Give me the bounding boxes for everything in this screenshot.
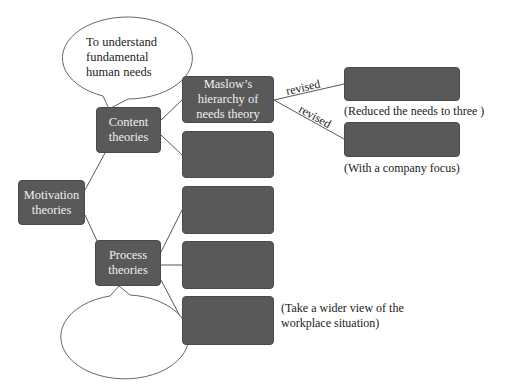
process-blank-node-2 <box>182 241 274 289</box>
revision-note-2: (With a company focus) <box>344 161 460 176</box>
process-blank-node-1 <box>182 186 274 234</box>
motivation-theories-node: Motivation theories <box>18 180 85 225</box>
content-theories-node: Content theories <box>96 107 161 153</box>
node-label: Maslow’s hierarchy of needs theory <box>183 77 273 122</box>
node-label: Motivation theories <box>19 188 84 218</box>
maslow-node: Maslow’s hierarchy of needs theory <box>182 76 274 123</box>
revision-blank-node-1 <box>344 67 460 101</box>
revision-note-1: (Reduced the needs to three ) <box>344 104 484 119</box>
node-label: Process theories <box>96 248 160 278</box>
top-bubble-text: To understand fundamental human needs <box>86 35 176 80</box>
process-blank-node-3 <box>182 296 274 345</box>
process-theories-node: Process theories <box>95 240 161 286</box>
revision-blank-node-2 <box>344 122 460 157</box>
node-label: Content theories <box>97 115 160 145</box>
process-note-3: (Take a wider view of the workplace situ… <box>281 301 421 331</box>
bottom-speech-bubble <box>61 286 189 379</box>
content-blank-node <box>182 131 274 178</box>
